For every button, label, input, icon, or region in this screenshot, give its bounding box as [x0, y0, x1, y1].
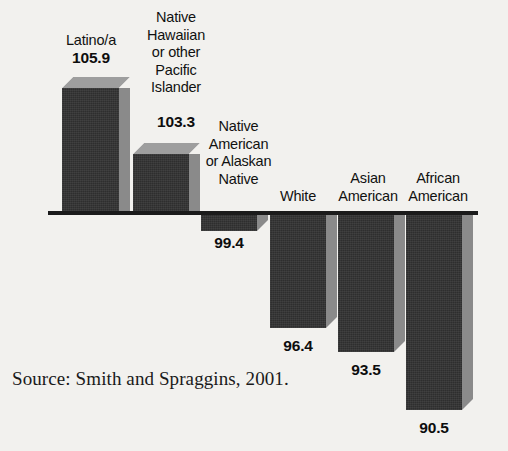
bar-label-native-hawaiian: Native Hawaiian or other Pacific Islande… [134, 9, 218, 97]
bar-value-native-american: 99.4 [196, 234, 262, 252]
bar-label-latino: Latino/a [48, 32, 134, 50]
bar-value-african-american: 90.5 [401, 419, 467, 437]
bar-front-face [133, 154, 189, 213]
bar-african-american [406, 213, 462, 410]
bar-asian-american [338, 213, 394, 352]
bar-label-asian-american: Asian American [330, 170, 406, 205]
bar-front-face [270, 213, 326, 328]
bar-front-face [201, 213, 257, 231]
bar-label-african-american: African American [398, 170, 478, 205]
bar-side-face [462, 213, 473, 410]
bar-side-face [326, 213, 337, 328]
bar-label-white: White [264, 188, 332, 206]
baseline-axis [48, 211, 478, 215]
bar-front-face [338, 213, 394, 352]
bar-chart: Latino/a Native Hawaiian or other Pacifi… [0, 0, 508, 451]
bar-side-face [394, 213, 405, 352]
bar-front-face [406, 213, 462, 410]
bar-value-native-hawaiian: 103.3 [134, 113, 218, 131]
bar-side-face [257, 213, 268, 231]
bar-latino [62, 77, 119, 213]
bar-side-face [119, 88, 130, 213]
bar-native-american [201, 213, 257, 231]
bar-value-asian-american: 93.5 [333, 361, 399, 379]
bar-value-white: 96.4 [265, 337, 331, 355]
bar-front-face [62, 88, 119, 213]
bar-value-latino: 105.9 [48, 49, 134, 67]
source-note: Source: Smith and Spraggins, 2001. [12, 368, 289, 390]
bar-native-hawaiian [133, 143, 189, 213]
bar-top-face [62, 77, 130, 88]
bar-white [270, 213, 326, 328]
